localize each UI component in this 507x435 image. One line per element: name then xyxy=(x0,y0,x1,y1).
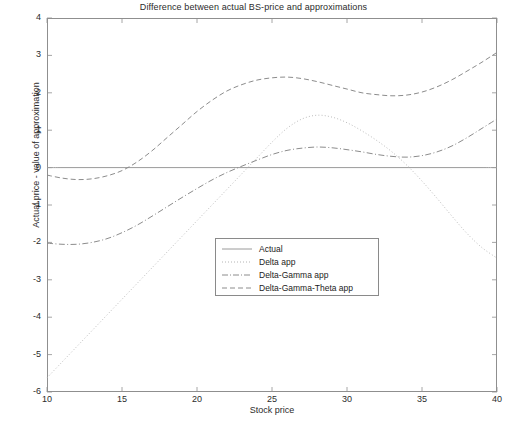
x-tick-25: 25 xyxy=(252,394,292,404)
legend-label-delta: Delta app xyxy=(259,256,295,268)
x-tick-20: 20 xyxy=(177,394,217,404)
legend-item-delta-gamma-theta: Delta-Gamma-Theta app xyxy=(221,281,373,294)
series-line-delta-gamma-app xyxy=(47,119,497,244)
series-line-delta-gamma-theta-app xyxy=(47,52,497,179)
x-tick-15: 15 xyxy=(102,394,142,404)
x-tick-30: 30 xyxy=(327,394,367,404)
x-tick-35: 35 xyxy=(402,394,442,404)
x-axis-label: Stock price xyxy=(47,405,497,415)
legend-item-delta-gamma: Delta-Gamma app xyxy=(221,268,373,281)
legend-line-delta-gamma-theta xyxy=(221,283,253,293)
legend-line-delta xyxy=(221,257,253,267)
legend-label-delta-gamma: Delta-Gamma app xyxy=(259,269,328,281)
plot-canvas xyxy=(47,18,497,392)
legend-label-actual: Actual xyxy=(259,243,283,255)
chart-legend: Actual Delta app Delta-Gamma app Delta-G… xyxy=(215,238,379,296)
y-tick-4: 4 xyxy=(7,12,41,22)
y-tick-neg4: -4 xyxy=(7,311,41,321)
y-tick-neg5: -5 xyxy=(7,349,41,359)
chart-page: Difference between actual BS-price and a… xyxy=(0,0,507,435)
legend-label-delta-gamma-theta: Delta-Gamma-Theta app xyxy=(259,282,353,294)
legend-line-delta-gamma xyxy=(221,270,253,280)
y-tick-neg3: -3 xyxy=(7,274,41,284)
legend-item-delta: Delta app xyxy=(221,255,373,268)
chart-title: Difference between actual BS-price and a… xyxy=(0,2,507,12)
x-tick-40: 40 xyxy=(477,394,507,404)
legend-line-actual xyxy=(221,244,253,254)
y-axis-label: Actual price - value of approximation xyxy=(31,45,41,265)
legend-item-actual: Actual xyxy=(221,242,373,255)
x-tick-10: 10 xyxy=(27,394,67,404)
